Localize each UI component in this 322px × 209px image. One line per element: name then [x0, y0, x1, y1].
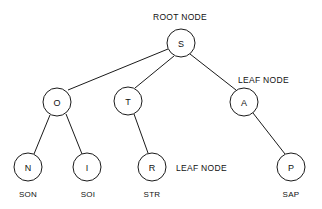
word-label-sap: SAP	[283, 190, 300, 199]
word-label-soi: SOI	[81, 190, 96, 199]
node-s[interactable]: S	[167, 29, 195, 57]
node-label-i: I	[86, 163, 89, 173]
edge-s-o	[68, 49, 168, 90]
node-label-t: T	[125, 97, 131, 107]
edge-o-i	[66, 114, 82, 154]
tree-diagram-svg: S O T A N I	[0, 0, 322, 209]
edge-s-a	[190, 54, 236, 90]
leaf-node-annotation-right: LEAF NODE	[238, 75, 289, 85]
node-group: S O T A N I	[14, 29, 305, 181]
leaf-node-annotation-middle: LEAF NODE	[176, 163, 227, 173]
word-label-group: SON SOI STR SAP	[19, 190, 300, 199]
edge-t-r	[134, 114, 148, 153]
node-label-a: A	[241, 98, 247, 108]
tree-diagram-canvas: S O T A N I	[0, 0, 322, 209]
node-t[interactable]: T	[114, 87, 142, 115]
node-label-n: N	[25, 163, 32, 173]
node-n[interactable]: N	[14, 153, 42, 181]
node-r[interactable]: R	[138, 153, 166, 181]
node-label-p: P	[288, 163, 294, 173]
root-node-annotation: ROOT NODE	[153, 12, 207, 22]
edge-a-p	[253, 113, 285, 154]
node-label-s: S	[178, 39, 184, 49]
word-label-str: STR	[144, 190, 161, 199]
node-label-o: O	[53, 98, 60, 108]
node-o[interactable]: O	[43, 88, 71, 116]
node-i[interactable]: I	[73, 153, 101, 181]
node-a[interactable]: A	[230, 88, 258, 116]
node-p[interactable]: P	[277, 153, 305, 181]
edge-o-n	[34, 115, 50, 154]
edge-s-t	[135, 56, 174, 88]
word-label-son: SON	[19, 190, 37, 199]
node-label-r: R	[149, 163, 156, 173]
